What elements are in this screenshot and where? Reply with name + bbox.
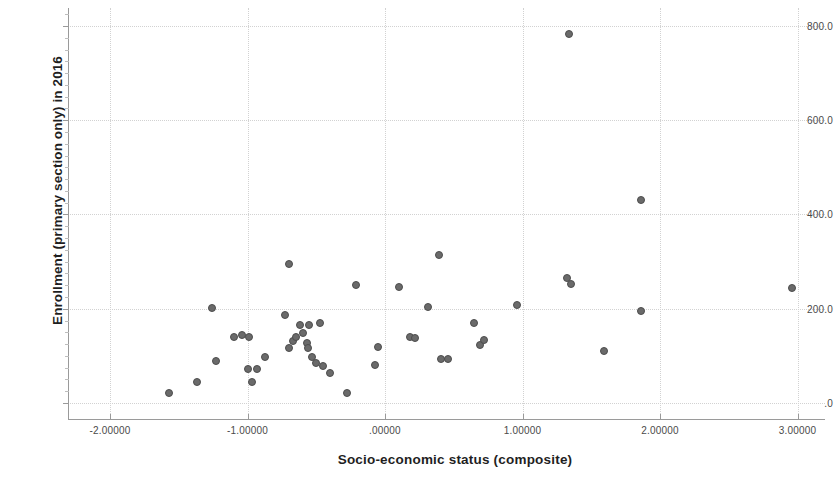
data-point <box>513 301 521 309</box>
data-point <box>411 334 419 342</box>
x-tick-label: 2.00000 <box>615 425 705 436</box>
data-point <box>395 283 403 291</box>
y-tick-minor <box>65 344 69 345</box>
y-tick-minor <box>65 50 69 51</box>
data-point <box>637 196 645 204</box>
x-tick-label: -1.00000 <box>203 425 293 436</box>
y-tick-label: 800.0 <box>771 20 833 31</box>
x-tick-mark <box>523 414 524 420</box>
y-tick-mark <box>63 309 69 310</box>
data-point <box>281 311 289 319</box>
gridline-horizontal <box>68 120 825 121</box>
y-tick-minor <box>65 38 69 39</box>
y-tick-minor <box>65 250 69 251</box>
gridline-vertical <box>523 8 524 420</box>
y-tick-minor <box>65 273 69 274</box>
data-point <box>208 304 216 312</box>
data-point <box>285 260 293 268</box>
data-point <box>261 353 269 361</box>
data-point <box>352 281 360 289</box>
y-tick-minor <box>65 85 69 86</box>
y-tick-mark <box>63 214 69 215</box>
x-tick-mark <box>660 414 661 420</box>
data-point <box>305 321 313 329</box>
gridline-vertical <box>660 8 661 420</box>
y-tick-minor <box>65 61 69 62</box>
y-tick-label: 600.0 <box>771 115 833 126</box>
data-point <box>248 378 256 386</box>
y-tick-minor <box>65 226 69 227</box>
y-tick-minor <box>65 73 69 74</box>
data-point <box>230 333 238 341</box>
y-tick-label: 400.0 <box>771 209 833 220</box>
x-tick-label: .00000 <box>340 425 430 436</box>
x-tick-mark <box>110 414 111 420</box>
data-point <box>343 389 351 397</box>
data-point <box>637 307 645 315</box>
data-point <box>319 362 327 370</box>
gridline-horizontal <box>68 214 825 215</box>
x-tick-mark <box>798 414 799 420</box>
y-tick-minor <box>65 391 69 392</box>
y-tick-minor <box>65 203 69 204</box>
x-tick-label: 3.00000 <box>753 425 838 436</box>
y-tick-minor <box>65 97 69 98</box>
data-point <box>371 361 379 369</box>
gridline-vertical <box>385 8 386 420</box>
y-tick-minor <box>65 14 69 15</box>
y-tick-minor <box>65 238 69 239</box>
data-point <box>244 365 252 373</box>
y-tick-minor <box>65 332 69 333</box>
y-tick-minor <box>65 368 69 369</box>
data-point <box>480 336 488 344</box>
data-point <box>253 365 261 373</box>
y-tick-minor <box>65 156 69 157</box>
y-tick-minor <box>65 108 69 109</box>
data-point <box>193 378 201 386</box>
y-tick-minor <box>65 297 69 298</box>
x-tick-label: 1.00000 <box>478 425 568 436</box>
y-tick-minor <box>65 285 69 286</box>
data-point <box>304 344 312 352</box>
data-point <box>326 369 334 377</box>
y-tick-minor <box>65 144 69 145</box>
gridline-vertical <box>248 8 249 420</box>
y-axis-title: Enrollment (primary section only) in 201… <box>50 41 65 341</box>
data-point <box>435 251 443 259</box>
y-tick-minor <box>65 356 69 357</box>
data-point <box>470 319 478 327</box>
y-tick-label: 200.0 <box>771 303 833 314</box>
x-tick-mark <box>248 414 249 420</box>
gridline-horizontal <box>68 403 825 404</box>
y-tick-minor <box>65 179 69 180</box>
y-tick-label: .0 <box>771 398 833 409</box>
x-axis-title: Socio-economic status (composite) <box>110 452 800 467</box>
data-point <box>565 30 573 38</box>
data-point <box>245 333 253 341</box>
data-point <box>788 284 796 292</box>
data-point <box>444 355 452 363</box>
y-tick-minor <box>65 167 69 168</box>
gridline-horizontal <box>68 26 825 27</box>
data-point <box>600 347 608 355</box>
data-point <box>296 321 304 329</box>
y-tick-minor <box>65 132 69 133</box>
data-point <box>299 329 307 337</box>
data-point <box>374 343 382 351</box>
data-point <box>316 319 324 327</box>
y-tick-minor <box>65 379 69 380</box>
data-point <box>165 389 173 397</box>
y-tick-minor <box>65 191 69 192</box>
data-point <box>424 303 432 311</box>
data-point <box>567 280 575 288</box>
y-tick-mark <box>63 120 69 121</box>
y-tick-mark <box>63 26 69 27</box>
y-tick-mark <box>63 403 69 404</box>
data-point <box>212 357 220 365</box>
gridline-vertical <box>110 8 111 420</box>
y-tick-minor <box>65 321 69 322</box>
y-tick-minor <box>65 262 69 263</box>
gridline-horizontal <box>68 309 825 310</box>
x-tick-label: -2.00000 <box>65 425 155 436</box>
